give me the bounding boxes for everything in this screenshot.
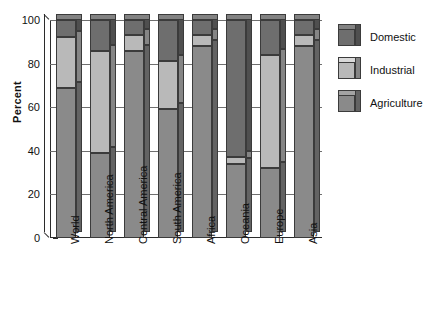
y-axis-line-back — [44, 14, 45, 232]
legend-swatch — [338, 62, 355, 79]
x-tick-label: Oceania — [240, 203, 251, 244]
bar-segment-side-industrial — [280, 49, 286, 162]
bar-segment-side-industrial — [178, 55, 184, 103]
y-axis-ticks: 020406080100 — [12, 0, 40, 335]
bar-segment-industrial[interactable] — [226, 157, 246, 164]
legend-swatch-side-face — [355, 24, 361, 46]
bar-segment-side-industrial — [246, 151, 252, 158]
bar-group[interactable] — [260, 20, 280, 238]
y-tick-label: 60 — [14, 102, 40, 113]
legend-swatch — [338, 29, 355, 46]
bar-segment-side-agriculture — [212, 40, 218, 232]
y-axis-cap-bottom — [44, 232, 50, 238]
legend-swatch-side-face — [355, 57, 361, 79]
bar-group[interactable] — [192, 20, 212, 238]
y-tick-label: 40 — [14, 146, 40, 157]
bar-segment-industrial[interactable] — [294, 35, 314, 46]
bar-segment-industrial[interactable] — [124, 35, 144, 50]
bar-top-face — [124, 14, 150, 20]
bar-segment-side-industrial — [76, 31, 82, 81]
bar-segment-industrial[interactable] — [90, 51, 110, 153]
legend-swatch-side-face — [355, 90, 361, 112]
bar-segment-industrial[interactable] — [260, 55, 280, 168]
y-tick-label: 80 — [14, 59, 40, 70]
bar-segment-industrial[interactable] — [158, 61, 178, 109]
legend-label: Industrial — [370, 64, 415, 77]
legend-label: Agriculture — [370, 97, 423, 110]
bar-top-face — [158, 14, 184, 20]
y-tick-label: 100 — [14, 15, 40, 26]
legend-swatch — [338, 95, 355, 112]
bar-segment-agriculture[interactable] — [294, 46, 314, 238]
bar-segment-domestic[interactable] — [56, 20, 76, 37]
x-tick-label: North America — [104, 174, 115, 244]
x-tick-label: Africa — [206, 216, 217, 244]
plot-area — [50, 20, 322, 238]
y-tick-mark — [53, 238, 58, 239]
legend-item[interactable]: Domestic — [334, 22, 430, 55]
x-tick-label: Central America — [138, 166, 149, 244]
bar-top-face — [192, 14, 218, 20]
bar-top-face — [226, 14, 252, 20]
legend-label: Domestic — [370, 31, 416, 44]
y-tick-label: 0 — [14, 233, 40, 244]
bar-segment-domestic[interactable] — [294, 20, 314, 35]
bar-segment-side-industrial — [212, 29, 218, 40]
chart-legend: DomesticIndustrialAgriculture — [334, 22, 430, 121]
bar-segment-domestic[interactable] — [124, 20, 144, 35]
bar-segment-domestic[interactable] — [260, 20, 280, 55]
bar-segment-domestic[interactable] — [192, 20, 212, 35]
bar-top-face — [260, 14, 286, 20]
x-tick-label: Europe — [274, 209, 285, 244]
bar-top-face — [90, 14, 116, 20]
x-tick-label: South America — [172, 172, 183, 244]
bar-segment-side-industrial — [110, 45, 116, 147]
bar-group[interactable] — [294, 20, 314, 238]
bar-group[interactable] — [56, 20, 76, 238]
x-tick-label: Asia — [308, 223, 319, 244]
bar-segment-side-agriculture — [314, 40, 320, 232]
legend-item[interactable]: Industrial — [334, 55, 430, 88]
bar-segment-side-domestic — [246, 14, 252, 151]
bar-segment-domestic[interactable] — [158, 20, 178, 61]
x-tick-label: World — [70, 215, 81, 244]
bar-segment-agriculture[interactable] — [192, 46, 212, 238]
legend-item[interactable]: Agriculture — [334, 88, 430, 121]
bar-segment-industrial[interactable] — [56, 37, 76, 87]
bar-segment-side-industrial — [144, 29, 150, 44]
bar-segment-domestic[interactable] — [90, 20, 110, 51]
bar-segment-domestic[interactable] — [226, 20, 246, 157]
chart-root: Percent 020406080100 WorldNorth AmericaC… — [0, 0, 430, 335]
bar-top-face — [56, 14, 82, 20]
bar-segment-side-agriculture — [76, 82, 82, 232]
bar-segment-side-industrial — [314, 29, 320, 40]
bar-top-face — [294, 14, 320, 20]
bar-segment-industrial[interactable] — [192, 35, 212, 46]
bar-segment-side-domestic — [178, 14, 184, 55]
y-tick-label: 20 — [14, 189, 40, 200]
